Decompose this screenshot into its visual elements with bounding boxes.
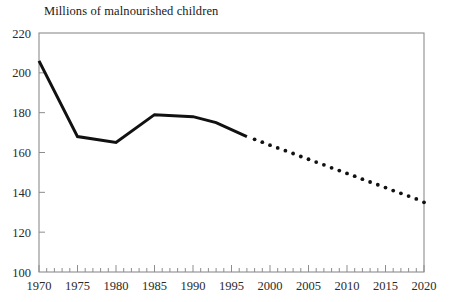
projected-data-point bbox=[353, 174, 357, 178]
y-tick-label: 180 bbox=[12, 106, 31, 120]
projected-data-point bbox=[268, 143, 272, 147]
x-tick-label: 1980 bbox=[104, 279, 129, 293]
projected-data-point bbox=[330, 166, 334, 170]
x-tick-label: 1990 bbox=[181, 279, 206, 293]
projected-data-point bbox=[391, 189, 395, 193]
y-tick-label: 160 bbox=[12, 146, 31, 160]
line-chart-plot: 100120140160180200220 197019751980198519… bbox=[0, 0, 450, 302]
projected-data-point bbox=[414, 197, 418, 201]
x-tick-label: 2000 bbox=[258, 279, 283, 293]
projected-data-point bbox=[368, 180, 372, 184]
x-tick-label: 2015 bbox=[373, 279, 398, 293]
y-axis-tick-marks bbox=[39, 73, 45, 232]
x-tick-label: 1995 bbox=[219, 279, 244, 293]
projected-data-point bbox=[361, 177, 365, 181]
y-tick-label: 140 bbox=[12, 186, 31, 200]
projected-data-point bbox=[291, 152, 295, 156]
y-tick-label: 120 bbox=[12, 226, 31, 240]
y-tick-label: 220 bbox=[12, 27, 31, 41]
y-axis-tick-labels: 100120140160180200220 bbox=[12, 27, 31, 280]
x-axis-tick-labels: 1970197519801985199019952000200520102015… bbox=[27, 279, 437, 293]
projected-data-point bbox=[299, 155, 303, 159]
projected-data-point bbox=[260, 140, 264, 144]
projected-data-point bbox=[345, 172, 349, 176]
projected-data-point bbox=[337, 169, 341, 173]
projected-data-point bbox=[284, 149, 288, 153]
series-projected-dots bbox=[253, 137, 426, 204]
x-tick-label: 2005 bbox=[296, 279, 321, 293]
series-observed-line bbox=[39, 61, 247, 143]
projected-data-point bbox=[422, 200, 426, 204]
chart-container: Millions of malnourished children 100120… bbox=[0, 0, 450, 302]
projected-data-point bbox=[384, 186, 388, 190]
y-tick-label: 100 bbox=[12, 266, 31, 280]
x-tick-label: 1985 bbox=[142, 279, 167, 293]
projected-data-point bbox=[376, 183, 380, 187]
y-tick-label: 200 bbox=[12, 66, 31, 80]
x-tick-label: 1970 bbox=[27, 279, 52, 293]
projected-data-point bbox=[399, 191, 403, 195]
x-axis-tick-marks bbox=[39, 265, 424, 272]
plot-frame bbox=[39, 33, 424, 272]
x-tick-label: 1975 bbox=[65, 279, 90, 293]
x-tick-label: 2010 bbox=[335, 279, 360, 293]
projected-data-point bbox=[253, 137, 257, 141]
projected-data-point bbox=[276, 146, 280, 150]
projected-data-point bbox=[314, 160, 318, 164]
projected-data-point bbox=[322, 163, 326, 167]
projected-data-point bbox=[307, 157, 311, 161]
projected-data-point bbox=[407, 194, 411, 198]
x-tick-label: 2020 bbox=[412, 279, 437, 293]
